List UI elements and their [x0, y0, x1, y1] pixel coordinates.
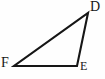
triangle-DEF — [14, 13, 88, 66]
vertex-label-e: E — [80, 60, 87, 72]
geometry-figure: D E F — [0, 0, 105, 79]
vertex-label-d: D — [90, 0, 100, 14]
vertex-label-f: F — [1, 56, 9, 70]
